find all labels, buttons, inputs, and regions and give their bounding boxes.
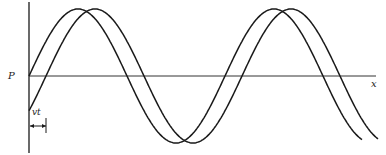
wave-diagram [0, 0, 386, 155]
arrowhead-left-icon [30, 124, 34, 128]
shift-label: vt [32, 107, 41, 117]
arrowhead-right-icon [42, 124, 46, 128]
x-axis-label: x [371, 78, 377, 89]
y-axis-label: P [8, 70, 15, 81]
